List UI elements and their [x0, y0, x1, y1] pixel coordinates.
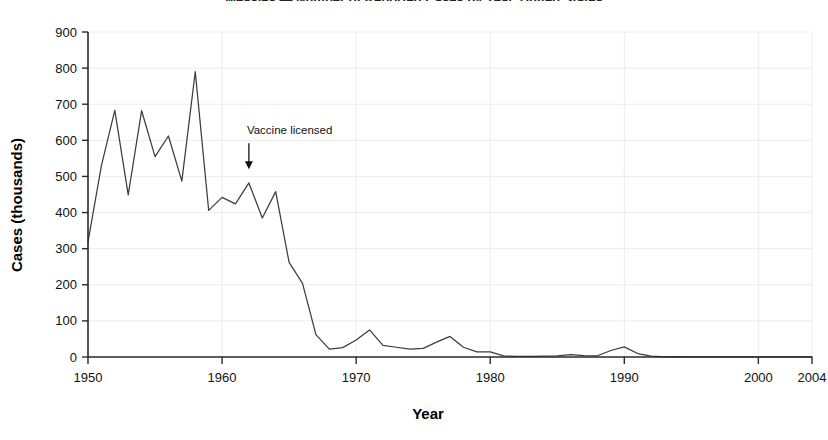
- vaccine-licensed-annotation: Vaccine licensed: [245, 124, 332, 169]
- down-arrow-icon: [245, 143, 253, 169]
- y-tick-label-0: 0: [70, 350, 77, 365]
- measles-cases-line-chart: Measles — Number of Reported Cases by Ye…: [0, 0, 828, 440]
- chart-canvas: 0100200300400500600700800900 19501960197…: [0, 0, 828, 440]
- y-tick-label-400: 400: [55, 205, 77, 220]
- x-tick-label-1980: 1980: [476, 370, 505, 385]
- x-tick-label-1950: 1950: [74, 370, 103, 385]
- y-tick-label-700: 700: [55, 97, 77, 112]
- y-axis-ticks: 0100200300400500600700800900: [55, 25, 88, 365]
- x-axis-title: Year: [412, 405, 444, 422]
- x-tick-label-1960: 1960: [208, 370, 237, 385]
- x-tick-label-2000: 2000: [744, 370, 773, 385]
- x-axis-ticks: 1950196019701980199020002004: [74, 357, 827, 385]
- y-tick-label-300: 300: [55, 241, 77, 256]
- y-tick-label-100: 100: [55, 313, 77, 328]
- y-axis-title: Cases (thousands): [8, 138, 25, 272]
- y-tick-label-200: 200: [55, 277, 77, 292]
- x-tick-label-1970: 1970: [342, 370, 371, 385]
- x-tick-label-1990: 1990: [610, 370, 639, 385]
- y-tick-label-900: 900: [55, 25, 77, 40]
- series-line-reported-cases: [88, 72, 812, 357]
- x-tick-label-2004: 2004: [798, 370, 827, 385]
- y-tick-label-500: 500: [55, 169, 77, 184]
- annotation-label: Vaccine licensed: [247, 124, 332, 136]
- y-tick-label-800: 800: [55, 61, 77, 76]
- series-group: [88, 72, 812, 357]
- y-tick-label-600: 600: [55, 133, 77, 148]
